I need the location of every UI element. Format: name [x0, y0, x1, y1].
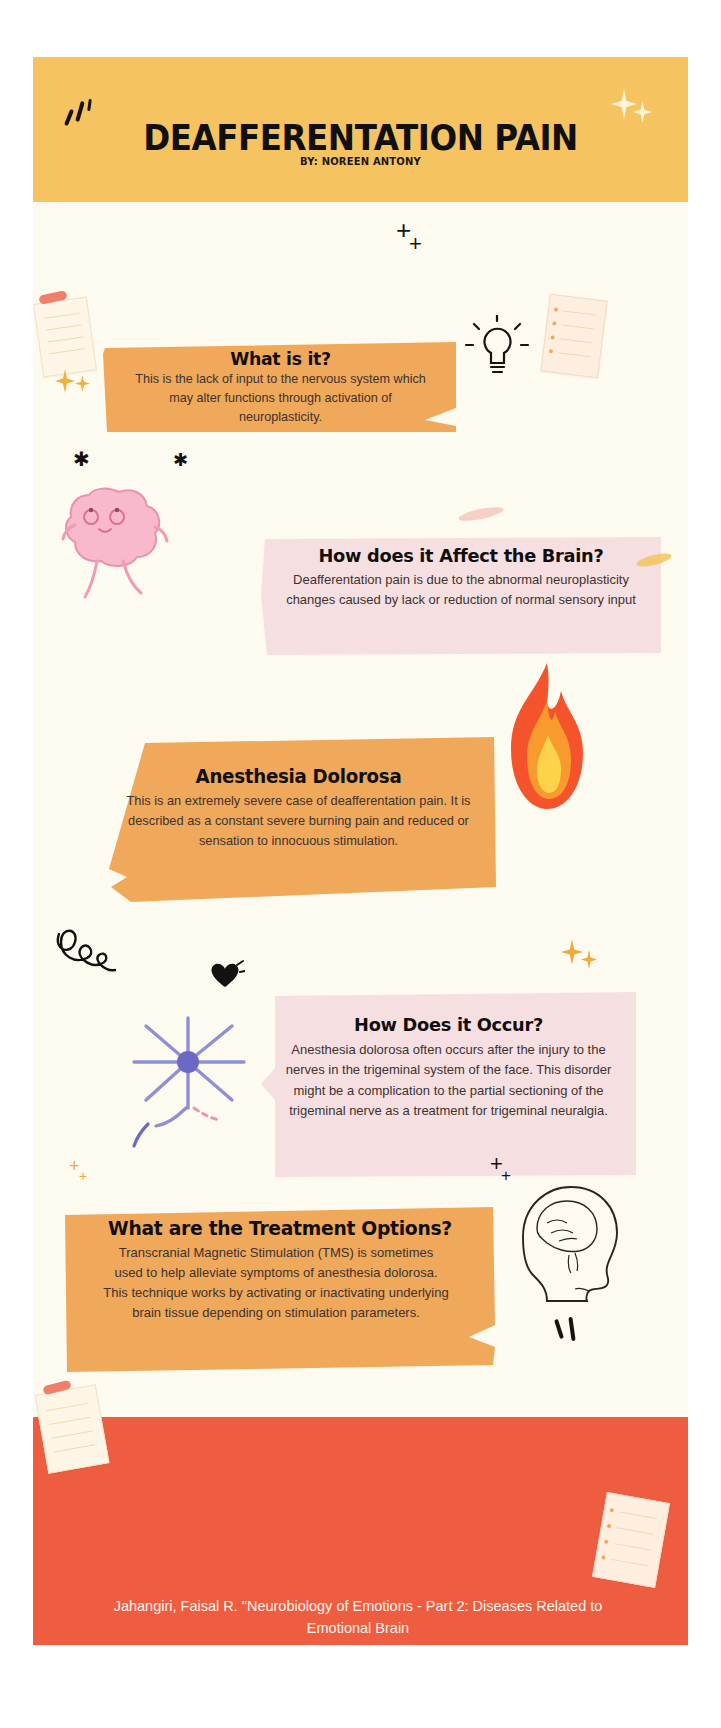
card-anesthesia-dolorosa: Anesthesia Dolorosa This is an extremely…	[101, 737, 496, 902]
plus-doodle-icon: +	[396, 217, 411, 243]
card-what-is-it: What is it? This is the lack of input to…	[103, 342, 458, 432]
cartoon-brain-icon	[61, 465, 176, 630]
plus-doodle-icon: +	[69, 1157, 80, 1175]
card-body: This is the lack of input to the nervous…	[121, 369, 440, 427]
grid-paper-note-icon	[35, 1384, 110, 1474]
squiggle-doodle-icon	[53, 922, 153, 982]
card-title: What is it?	[127, 348, 433, 369]
heart-icon	[205, 955, 245, 995]
card-how-does-it-occur: How Does it Occur? Anesthesia dolorosa o…	[261, 992, 636, 1177]
byline: BY: NOREEN ANTONY	[49, 155, 671, 167]
plus-doodle-icon: +	[409, 233, 422, 255]
card-body: Deafferentation pain is due to the abnor…	[279, 566, 643, 610]
lightbulb-icon	[461, 315, 531, 395]
card-affect-the-brain: How does it Affect the Brain? Deafferent…	[261, 535, 661, 655]
card-treatment-options: What are the Treatment Options? Transcra…	[65, 1207, 495, 1372]
burst-doodle-icon	[553, 1315, 593, 1357]
card-title: How does it Affect the Brain?	[286, 545, 635, 566]
card-body: Anesthesia dolorosa often occurs after t…	[279, 1035, 618, 1121]
head-anatomy-icon	[503, 1179, 633, 1304]
sparkle-icon	[561, 937, 607, 973]
card-title: Anesthesia Dolorosa	[126, 765, 471, 787]
footer-citation: Jahangiri, Faisal R. "Neurobiology of Em…	[103, 1595, 613, 1640]
grid-paper-note-icon	[33, 297, 97, 378]
flame-icon	[489, 657, 594, 847]
card-body: Transcranial Magnetic Stimulation (TMS) …	[83, 1240, 477, 1324]
asterisk-doodle-icon: ✱	[73, 447, 90, 471]
brush-smear-icon	[457, 504, 504, 523]
plus-doodle-icon: +	[79, 1169, 87, 1183]
card-body: This is an extremely severe case of deaf…	[119, 787, 478, 851]
neuron-cell-icon	[128, 1012, 268, 1157]
infographic-poster: DEAFFERENTATION PAIN BY: NOREEN ANTONY +…	[33, 57, 688, 1645]
page-title: DEAFFERENTATION PAIN	[56, 118, 665, 158]
asterisk-doodle-icon: ✱	[173, 449, 188, 471]
sticky-note-icon	[540, 294, 607, 378]
card-title: How Does it Occur?	[286, 1014, 611, 1035]
card-title: What are the Treatment Options?	[91, 1217, 469, 1240]
